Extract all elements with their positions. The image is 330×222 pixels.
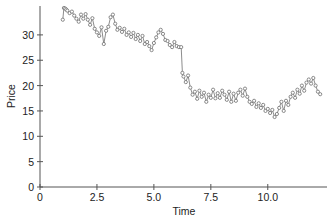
data-point [193, 90, 196, 93]
data-point [234, 99, 237, 102]
data-point [310, 82, 313, 85]
data-point [107, 25, 110, 28]
data-point [93, 27, 96, 30]
data-point [314, 84, 317, 87]
data-point [296, 88, 299, 91]
data-point [198, 89, 201, 92]
data-point [243, 87, 246, 90]
data-point [241, 94, 244, 97]
data-point [239, 88, 242, 91]
data-point [212, 88, 215, 91]
data-point [312, 76, 315, 79]
data-point [284, 99, 287, 102]
data-point [271, 108, 274, 111]
data-point [105, 29, 108, 32]
data-point [218, 96, 221, 99]
data-point [275, 112, 278, 115]
data-point [287, 103, 290, 106]
data-point [266, 107, 269, 110]
data-point [319, 93, 322, 96]
data-point [232, 92, 235, 95]
data-point [209, 96, 212, 99]
data-point [173, 40, 176, 43]
data-point [82, 17, 85, 20]
data-point [303, 89, 306, 92]
y-tick-label: 30 [22, 29, 34, 41]
data-point [161, 32, 164, 35]
data-point [214, 97, 217, 100]
data-point [280, 100, 283, 103]
data-point [141, 34, 144, 37]
data-point [221, 89, 224, 92]
data-point [181, 71, 184, 74]
data-point [200, 95, 203, 98]
data-point [180, 46, 183, 49]
data-point [273, 115, 276, 118]
data-point [294, 96, 297, 99]
data-point [228, 90, 231, 93]
data-point [259, 106, 262, 109]
axes: 02.55.07.510.0051015202530 [22, 6, 327, 203]
data-point [230, 100, 233, 103]
data-point [237, 91, 240, 94]
data-point [139, 39, 142, 42]
y-tick-label: 10 [22, 130, 34, 142]
y-tick-label: 0 [28, 181, 34, 193]
data-point [171, 46, 174, 49]
data-point [118, 26, 121, 29]
data-point [95, 31, 98, 34]
data-point [146, 40, 149, 43]
data-point [298, 92, 301, 95]
data-point [262, 103, 265, 106]
data-point [202, 91, 205, 94]
data-point [196, 97, 199, 100]
data-point [289, 95, 292, 98]
data-point [130, 35, 133, 38]
data-point [278, 106, 281, 109]
data-point [307, 78, 310, 81]
price-series [61, 6, 322, 118]
data-point [84, 13, 87, 16]
data-point [127, 31, 130, 34]
data-point [223, 93, 226, 96]
data-point [166, 39, 169, 42]
data-point [100, 26, 103, 29]
data-point [155, 36, 158, 39]
x-tick-label: 7.5 [204, 191, 219, 203]
data-point [89, 23, 92, 26]
data-point [120, 30, 123, 33]
data-point [148, 45, 151, 48]
data-point [250, 102, 253, 105]
data-point [189, 86, 192, 89]
data-point [207, 93, 210, 96]
data-point [187, 74, 190, 77]
data-point [246, 95, 249, 98]
data-point [79, 13, 82, 16]
data-point [300, 84, 303, 87]
data-point [152, 41, 155, 44]
data-point [91, 17, 94, 20]
data-point [184, 81, 187, 84]
x-tick-label: 0 [37, 191, 43, 203]
data-point [102, 42, 105, 45]
x-tick-label: 2.5 [90, 191, 105, 203]
price-chart: 02.55.07.510.0051015202530 Time Price [0, 0, 330, 222]
data-point [86, 18, 89, 21]
data-point [257, 102, 260, 105]
y-tick-label: 25 [22, 54, 34, 66]
data-point [77, 20, 80, 23]
y-tick-label: 5 [28, 156, 34, 168]
data-point [269, 111, 272, 114]
data-point [75, 17, 78, 20]
data-point [150, 49, 153, 52]
data-point [136, 33, 139, 36]
x-axis-label: Time [173, 205, 196, 217]
y-tick-label: 15 [22, 105, 34, 117]
data-point [282, 109, 285, 112]
data-point [205, 100, 208, 103]
data-point [291, 91, 294, 94]
data-point [305, 81, 308, 84]
data-point [111, 13, 114, 16]
data-point [114, 22, 117, 25]
data-point [70, 10, 73, 13]
